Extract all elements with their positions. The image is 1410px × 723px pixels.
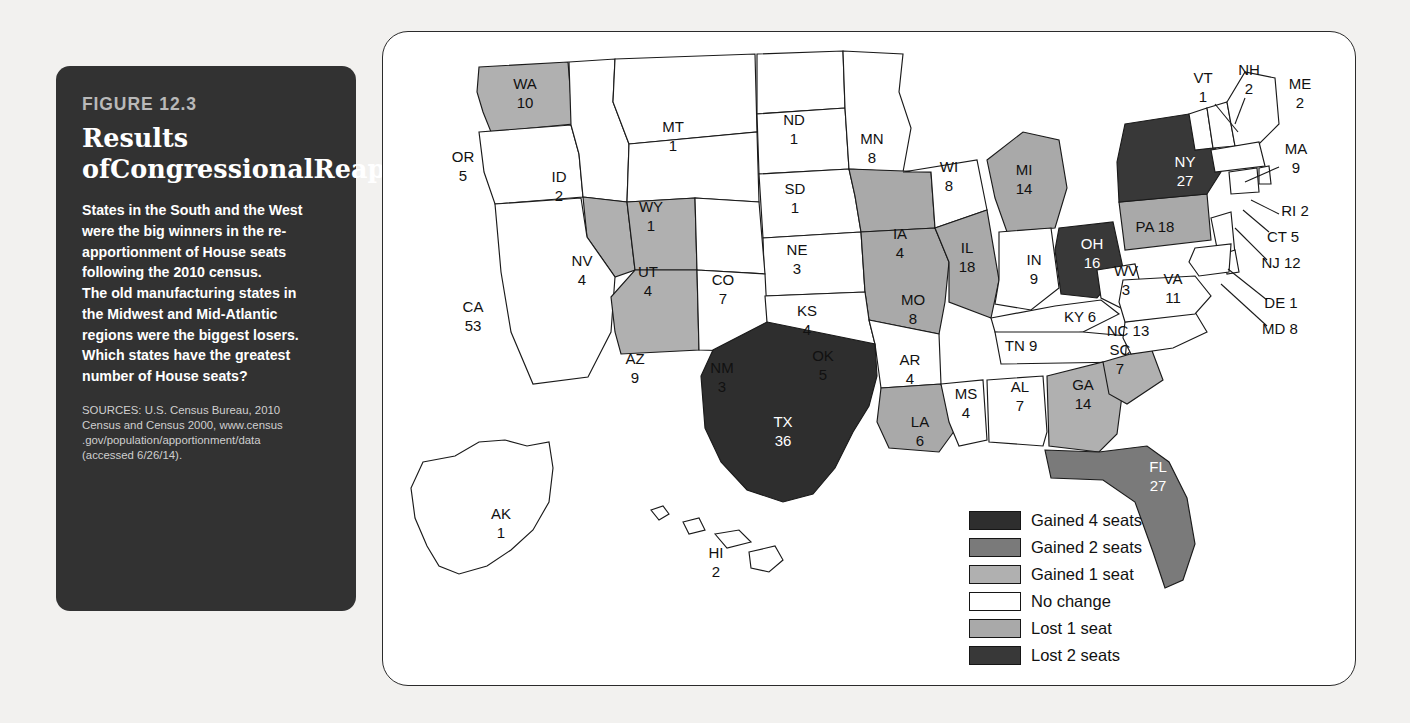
state-seat-count: 4 [578, 271, 586, 288]
state-md[interactable] [1189, 244, 1231, 276]
figure-description-line: The old manufacturing states in [82, 283, 330, 304]
figure-description-line: the Midwest and Mid-Atlantic [82, 304, 330, 325]
state-label-ky: KY 6 [1064, 308, 1096, 325]
state-label-pa: PA 18 [1136, 218, 1175, 235]
legend-label-gained1: Gained 1 seat [1031, 565, 1134, 584]
legend-item-nochange[interactable]: No change [969, 589, 1219, 614]
state-label-ma: MA9 [1285, 140, 1308, 176]
legend-item-gained2[interactable]: Gained 2 seats [969, 535, 1219, 560]
state-seat-count: 2 [555, 187, 563, 204]
state-code: GA [1072, 376, 1094, 393]
legend-swatch-lost2 [969, 646, 1021, 665]
state-seat-count: 4 [962, 404, 970, 421]
state-code: IL [961, 239, 974, 256]
state-seat-count: 27 [1177, 172, 1194, 189]
state-code: WI [940, 158, 958, 175]
state-mt[interactable] [613, 54, 757, 144]
state-seat-count: 2 [1296, 94, 1304, 111]
state-label-vt: VT1 [1193, 69, 1212, 105]
state-code: OH [1081, 235, 1104, 252]
state-az[interactable] [611, 270, 699, 354]
state-code: UT [638, 263, 658, 280]
figure-description-line: were the big winners in the re- [82, 221, 330, 242]
state-seat-count: 8 [945, 177, 953, 194]
state-code: WA [513, 75, 537, 92]
state-ia[interactable] [849, 169, 935, 232]
state-ct[interactable] [1229, 168, 1259, 194]
map-legend: Gained 4 seatsGained 2 seatsGained 1 sea… [969, 508, 1219, 670]
state-seat-count: 18 [959, 258, 976, 275]
figure-description-line: regions were the biggest losers. [82, 325, 330, 346]
state-code: NH [1238, 61, 1260, 78]
state-code: FL [1149, 458, 1167, 475]
state-code: VA [1164, 270, 1183, 287]
state-label-me: ME2 [1289, 75, 1312, 111]
legend-item-gained4[interactable]: Gained 4 seats [969, 508, 1219, 533]
state-code: VT [1193, 69, 1212, 86]
state-seat-count: 1 [790, 130, 798, 147]
figure-sources: SOURCES: U.S. Census Bureau, 2010Census … [82, 403, 330, 464]
state-seat-count: 9 [1292, 159, 1300, 176]
state-code: AK [491, 505, 511, 522]
state-seat-count: 14 [1016, 180, 1033, 197]
state-seat-count: 2 [1245, 80, 1253, 97]
legend-swatch-gained4 [969, 511, 1021, 530]
state-label-ca: CA53 [463, 298, 484, 334]
state-seat-count: 1 [647, 217, 655, 234]
state-seat-count: 5 [819, 366, 827, 383]
state-co[interactable] [695, 198, 765, 274]
state-seat-count: 3 [793, 260, 801, 277]
figure-title: Results ofCongressionalReapportionment,2… [82, 123, 330, 184]
state-code: MS [955, 385, 978, 402]
figure-description-line: number of House seats? [82, 366, 330, 387]
state-seat-count: 27 [1150, 477, 1167, 494]
state-seat-count: 7 [1116, 360, 1124, 377]
state-ak[interactable] [411, 440, 553, 574]
state-nd[interactable] [757, 51, 845, 114]
state-code: WY [639, 198, 663, 215]
legend-item-gained1[interactable]: Gained 1 seat [969, 562, 1219, 587]
state-code: AR [900, 351, 921, 368]
state-mn[interactable] [843, 51, 911, 172]
state-code: IN [1027, 251, 1042, 268]
figure-description-line: Which states have the greatest [82, 345, 330, 366]
figure-caption-card: FIGURE 12.3 Results ofCongressionalReapp… [56, 66, 356, 611]
state-code: ND [783, 111, 805, 128]
figure-source-line: .gov/population/apportionment/data [82, 433, 330, 448]
state-code: OR [452, 148, 475, 165]
state-seat-count: 3 [718, 378, 726, 395]
state-code: ME [1289, 75, 1312, 92]
state-seat-count: 53 [465, 317, 482, 334]
state-wy[interactable] [627, 132, 759, 202]
state-seat-count: 4 [803, 321, 811, 338]
legend-item-lost1[interactable]: Lost 1 seat [969, 616, 1219, 641]
legend-label-nochange: No change [1031, 592, 1111, 611]
state-seat-count: 11 [1165, 289, 1181, 306]
figure-description-line: apportionment of House seats [82, 242, 330, 263]
state-or[interactable] [479, 125, 583, 204]
state-seat-count: 7 [1016, 397, 1024, 414]
legend-swatch-lost1 [969, 619, 1021, 638]
state-in[interactable] [995, 228, 1059, 310]
state-code: TX [773, 413, 792, 430]
state-code: AZ [625, 350, 644, 367]
legend-swatch-gained1 [969, 565, 1021, 584]
state-seat-count: 16 [1084, 254, 1101, 271]
figure-description: States in the South and the Westwere the… [82, 200, 330, 387]
figure-number: FIGURE 12.3 [82, 94, 330, 115]
state-seat-count: 36 [775, 432, 792, 449]
state-mo[interactable] [861, 228, 949, 334]
state-seat-count: 4 [906, 370, 914, 387]
state-label-ct: CT 5 [1267, 228, 1299, 245]
state-ks[interactable] [763, 232, 865, 296]
state-ne[interactable] [759, 169, 861, 238]
legend-item-lost2[interactable]: Lost 2 seats [969, 643, 1219, 668]
state-code: MN [860, 130, 883, 147]
state-code: NY [1175, 153, 1196, 170]
state-label-ri: RI 2 [1281, 202, 1309, 219]
state-seat-count: 1 [669, 137, 677, 154]
state-code: CO [712, 271, 735, 288]
state-code: MO [901, 291, 925, 308]
state-seat-count: 3 [1122, 281, 1130, 298]
state-seat-count: 10 [517, 94, 534, 111]
